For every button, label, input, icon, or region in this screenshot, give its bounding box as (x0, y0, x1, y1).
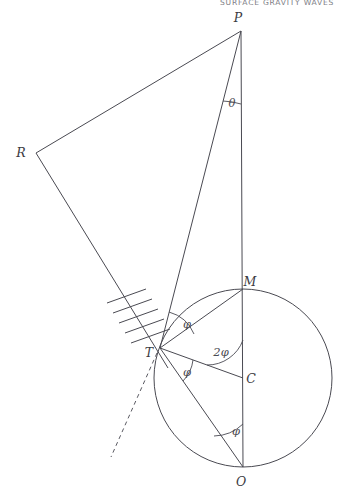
point-label-R: R (15, 145, 25, 160)
figure-page: SURFACE GRAVITY WAVES (0, 0, 344, 494)
segment-P-O-vertical (241, 31, 243, 467)
point-label-P: P (233, 10, 243, 25)
dashed-tangent-ray (111, 353, 157, 457)
point-label-C: C (246, 371, 256, 386)
segment-T-C-radius (160, 348, 243, 378)
segment-R-T (36, 153, 168, 368)
hatch-marks-group (107, 289, 170, 343)
angle-label-phi-at-O: φ (232, 424, 240, 438)
angle-label-theta: θ (229, 96, 236, 110)
point-label-T: T (145, 345, 155, 360)
angle-label-phi-upper: φ (183, 317, 191, 331)
segment-T-O (160, 348, 243, 467)
point-label-O: O (236, 474, 246, 489)
geometry-diagram: P R T M C O θ φ φ 2φ φ (0, 0, 344, 494)
segment-P-T (160, 31, 241, 348)
point-label-M: M (243, 274, 258, 289)
angle-label-phi-lower: φ (183, 365, 191, 379)
angle-label-two-phi: 2φ (212, 345, 228, 359)
hatch-mark (125, 319, 164, 333)
segment-P-R (36, 31, 241, 153)
